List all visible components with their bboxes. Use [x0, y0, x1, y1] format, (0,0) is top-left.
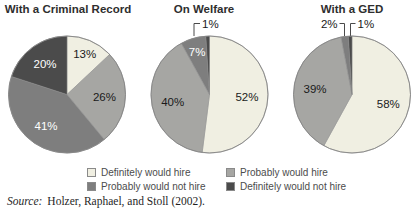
slice-label: 52%	[235, 91, 258, 103]
source-label: Source:	[7, 195, 42, 207]
slice-label: 58%	[377, 98, 400, 110]
slice-label: 26%	[93, 91, 116, 103]
slice-label: 7%	[189, 46, 206, 58]
legend-label: Probably would hire	[240, 167, 328, 178]
callout-line	[351, 24, 356, 37]
legend-item-probably-would-hire: Probably would hire	[226, 167, 346, 178]
slice-label: 13%	[73, 48, 96, 60]
slice-label: 41%	[34, 120, 57, 132]
probably-would-hire-swatch	[226, 168, 235, 177]
probably-would-not-hire-swatch	[87, 182, 96, 191]
legend-label: Definitely would not hire	[240, 181, 346, 192]
legend-item-definitely-would-not-hire: Definitely would not hire	[226, 181, 346, 192]
callout-label: 1%	[202, 18, 219, 30]
source-text: Holzer, Raphael, and Stoll (2002).	[47, 195, 205, 207]
legend-label: Probably would not hire	[101, 181, 206, 192]
legend-label: Definitely would hire	[101, 167, 191, 178]
callout-line	[340, 24, 345, 37]
source-citation: Source:Holzer, Raphael, and Stoll (2002)…	[7, 195, 205, 207]
definitely-would-hire-swatch	[87, 168, 96, 177]
callout-label: 2%	[321, 18, 338, 30]
slice-label: 39%	[303, 83, 326, 95]
callout-line	[194, 24, 200, 37]
legend-item-probably-would-not-hire: Probably would not hire	[87, 181, 226, 192]
slice-label: 40%	[161, 96, 184, 108]
chart-legend: Definitely would hire Probably would hir…	[87, 167, 346, 192]
callout-label: 1%	[358, 18, 375, 30]
legend-item-definitely-would-hire: Definitely would hire	[87, 167, 226, 178]
slice-label: 20%	[33, 58, 56, 70]
definitely-would-not-hire-swatch	[226, 182, 235, 191]
